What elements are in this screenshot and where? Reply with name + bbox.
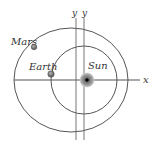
earth-label: Earth xyxy=(28,61,58,72)
orbital-diagram: Mars Earth Sun x y y xyxy=(0,0,155,148)
diagram-canvas: Mars Earth Sun x y y xyxy=(0,0,155,148)
sun-core xyxy=(85,78,89,82)
sun-label: Sun xyxy=(88,60,108,71)
x-axis-label: x xyxy=(143,74,149,85)
y-axis-left-label: y xyxy=(71,8,78,18)
y-axis-right-label: y xyxy=(81,8,88,18)
mars-label: Mars xyxy=(10,36,37,47)
